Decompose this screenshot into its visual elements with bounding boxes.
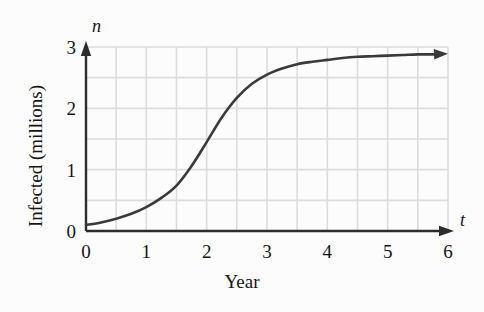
chart-figure: 0123456 0123 n t Year Infected (millions… bbox=[0, 0, 484, 312]
x-tick-label: 5 bbox=[368, 242, 408, 261]
x-tick-label: 0 bbox=[66, 242, 106, 261]
x-axis-arrowhead bbox=[439, 226, 454, 236]
x-tick-label: 6 bbox=[428, 242, 468, 261]
y-axis-title: Infected (millions) bbox=[14, 0, 58, 312]
x-tick-label: 4 bbox=[307, 242, 347, 261]
curve-end-arrowhead bbox=[434, 49, 448, 60]
x-tick-label: 3 bbox=[247, 242, 287, 261]
x-axis-variable-label: t bbox=[460, 211, 465, 229]
x-axis-title: Year bbox=[0, 272, 484, 291]
x-tick-label: 1 bbox=[126, 242, 166, 261]
x-tick-label: 2 bbox=[187, 242, 227, 261]
y-axis-arrowhead bbox=[81, 41, 91, 56]
y-axis-variable-label: n bbox=[92, 17, 101, 35]
